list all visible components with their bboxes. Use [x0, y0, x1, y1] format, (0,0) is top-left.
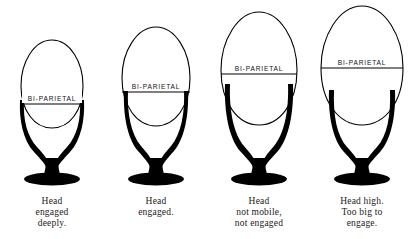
fetal-head-outline: [21, 40, 83, 128]
fetal-head-outline: [122, 27, 190, 126]
stage-1-caption: Head engaged deeply.: [0, 196, 104, 230]
panel-stage-4: BI-PARIETAL Head high. Too big to engage…: [310, 0, 414, 239]
panel-stage-1: BI-PARIETAL Head engaged deeply.: [0, 0, 104, 239]
stage-2-caption: Head engaged.: [104, 196, 208, 218]
caption-line: engaged: [0, 207, 104, 218]
panel-stage-2: BI-PARIETAL Head engaged.: [104, 0, 208, 239]
bi-parietal-label: BI-PARIETAL: [28, 95, 77, 102]
caption-line: deeply.: [0, 218, 104, 229]
stage-2-illustration: BI-PARIETAL: [104, 0, 208, 195]
caption-line: Too big to: [310, 207, 414, 218]
caption-line: Head: [104, 196, 208, 207]
bi-parietal-label: BI-PARIETAL: [235, 65, 284, 72]
caption-line: Head high.: [310, 196, 414, 207]
bi-parietal-label: BI-PARIETAL: [338, 59, 387, 66]
caption-line: Head: [207, 196, 311, 207]
stage-3-illustration: BI-PARIETAL: [207, 0, 311, 195]
caption-line: engaged.: [104, 207, 208, 218]
stage-4-illustration: BI-PARIETAL: [310, 0, 414, 195]
stage-3-caption: Head not mobile, not engaged: [207, 196, 311, 230]
stage-1-illustration: BI-PARIETAL: [0, 0, 104, 195]
stage-4-caption: Head high. Too big to engage.: [310, 196, 414, 230]
caption-line: not mobile,: [207, 207, 311, 218]
caption-line: Head: [0, 196, 104, 207]
caption-line: not engaged: [207, 218, 311, 229]
fetal-head-engagement-figure: BI-PARIETAL Head engaged deeply. BI-PARI…: [0, 0, 414, 239]
caption-line: engage.: [310, 218, 414, 229]
panel-stage-3: BI-PARIETAL Head not mobile, not engaged: [207, 0, 311, 239]
bi-parietal-label: BI-PARIETAL: [132, 83, 181, 90]
